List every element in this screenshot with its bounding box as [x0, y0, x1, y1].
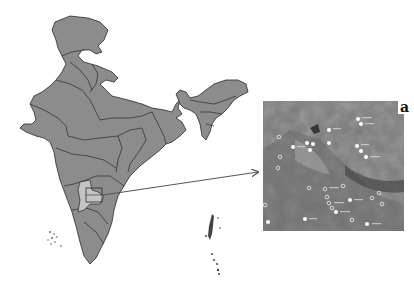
satellite-inset	[263, 101, 404, 231]
india-mainland	[20, 16, 186, 264]
panel-label: a	[398, 100, 411, 114]
india-map	[20, 16, 248, 275]
figure-canvas	[0, 0, 414, 288]
lakshadweep-islands	[47, 231, 62, 247]
india-northeast	[176, 80, 248, 140]
andaman-nicobar-islands	[205, 214, 221, 275]
